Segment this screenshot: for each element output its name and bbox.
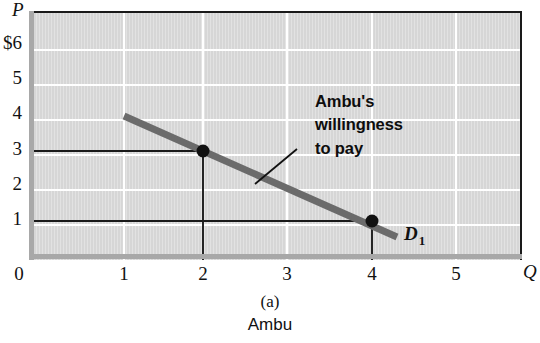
x-tick-label-2: 2 — [190, 264, 216, 283]
y-axis-spine — [29, 11, 34, 260]
panel-name: Ambu — [0, 314, 540, 337]
x-tick-label-3: 3 — [274, 264, 300, 283]
y-tick-label-1: 1 — [0, 209, 22, 228]
y-tick-label-6: $6 — [0, 33, 22, 52]
y-tick-label-3: 3 — [0, 139, 22, 158]
y-tick-label-4: 4 — [0, 103, 22, 122]
willingness-to-pay-annotation: Ambu's willingness to pay — [315, 90, 475, 160]
x-axis-title: Q — [523, 262, 537, 281]
x-axis-spine — [29, 254, 522, 259]
demand-curve-figure: P Q $6 5 4 3 2 1 0 1 2 3 4 5 D1 Ambu's w… — [0, 0, 540, 343]
data-point-q4-p1 — [366, 215, 379, 228]
data-point-q2-p3 — [197, 145, 210, 158]
annotation-line-2: willingness — [315, 113, 475, 136]
x-tick-label-5: 5 — [443, 264, 469, 283]
demand-curve-label-letter: D — [404, 223, 418, 244]
x-tick-label-0: 0 — [6, 264, 32, 283]
annotation-line-1: Ambu's — [315, 90, 475, 113]
demand-curve-label: D1 — [404, 224, 425, 247]
y-axis-title: P — [12, 0, 24, 19]
demand-curve-label-subscript: 1 — [419, 233, 426, 248]
y-tick-label-2: 2 — [0, 174, 22, 193]
annotation-line-3: to pay — [315, 137, 475, 160]
y-tick-label-5: 5 — [0, 68, 22, 87]
figure-caption: (a) Ambu — [0, 292, 540, 336]
x-tick-label-1: 1 — [111, 264, 137, 283]
panel-label: (a) — [0, 292, 540, 312]
x-tick-label-4: 4 — [359, 264, 385, 283]
